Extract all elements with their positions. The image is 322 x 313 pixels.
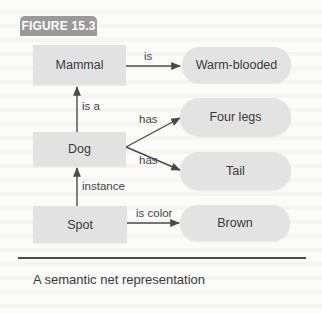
node-warm-blooded-label: Warm-blooded [196,58,278,72]
edge-label-is-a: is a [82,100,100,112]
node-spot-label: Spot [67,218,93,232]
node-dog: Dog [33,132,126,166]
node-spot: Spot [33,206,127,243]
node-brown-label: Brown [217,216,252,230]
edge-label-instance: instance [82,180,125,192]
node-tail-label: Tail [226,164,245,178]
edge-label-has-tail: has [139,154,158,166]
node-four-legs-label: Four legs [209,110,261,124]
node-tail: Tail [180,152,291,190]
node-warm-blooded: Warm-blooded [182,47,291,83]
edge-label-is-color: is color [136,207,172,219]
node-mammal: Mammal [33,45,126,85]
node-four-legs: Four legs [180,98,291,136]
figure-caption: A semantic net representation [33,272,205,287]
edge-label-is: is [144,50,152,62]
node-mammal-label: Mammal [56,58,104,72]
caption-divider [18,257,306,259]
node-dog-label: Dog [68,142,91,156]
edge-label-has-four-legs: has [139,113,158,125]
node-brown: Brown [180,205,290,241]
